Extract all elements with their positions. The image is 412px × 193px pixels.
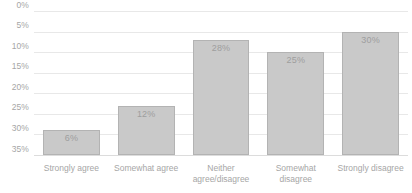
bar[interactable]: 25% <box>267 52 324 155</box>
y-axis-tick-label: 20% <box>12 83 29 92</box>
bar[interactable]: 6% <box>43 130 100 155</box>
bar-value-label: 30% <box>343 36 398 45</box>
bar-slot: 6% <box>34 0 109 155</box>
bar-value-label: 25% <box>268 56 323 65</box>
bar-slot: 25% <box>258 0 333 155</box>
x-axis-category-label: Somewhat agree <box>109 163 184 174</box>
bar-slot: 28% <box>184 0 259 155</box>
bar[interactable]: 30% <box>342 32 399 155</box>
x-axis-category-label: Strongly agree <box>34 163 109 174</box>
bar-slot: 30% <box>333 0 408 155</box>
bar-chart: 0%5%10%15%20%25%30%35% 6%12%28%25%30% St… <box>0 0 412 193</box>
x-axis-category-label: Neither agree/disagree <box>184 163 259 184</box>
bar-value-label: 12% <box>119 110 174 119</box>
bar-slot: 12% <box>109 0 184 155</box>
x-axis-category-label: Strongly disagree <box>333 163 408 174</box>
bars-group: 6%12%28%25%30% <box>34 0 408 160</box>
y-axis-tick-label: 15% <box>12 62 29 71</box>
x-axis: Strongly agreeSomewhat agreeNeither agre… <box>34 160 408 193</box>
y-axis: 0%5%10%15%20%25%30%35% <box>0 0 34 160</box>
y-axis-tick-label: 35% <box>12 145 29 154</box>
y-axis-tick-label: 10% <box>12 42 29 51</box>
bar[interactable]: 12% <box>118 106 175 155</box>
plot-area: 6%12%28%25%30% <box>34 0 408 160</box>
bar-value-label: 28% <box>194 44 249 53</box>
y-axis-tick-label: 30% <box>12 124 29 133</box>
bar[interactable]: 28% <box>193 40 250 155</box>
y-axis-tick-label: 25% <box>12 104 29 113</box>
y-axis-tick-label: 0% <box>17 1 30 10</box>
y-axis-tick-label: 5% <box>17 21 30 30</box>
x-axis-category-label: Somewhat disagree <box>258 163 333 184</box>
bar-value-label: 6% <box>44 134 99 143</box>
